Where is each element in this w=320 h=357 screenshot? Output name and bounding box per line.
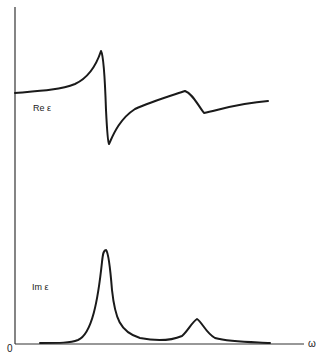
im-epsilon-curve — [40, 250, 270, 343]
re-epsilon-label: Re ε — [33, 103, 51, 113]
im-epsilon-label: Im ε — [32, 282, 49, 292]
dielectric-function-plot — [0, 0, 320, 357]
re-epsilon-curve — [15, 51, 268, 144]
origin-label: 0 — [7, 343, 13, 354]
x-axis-label: ω — [308, 338, 316, 349]
